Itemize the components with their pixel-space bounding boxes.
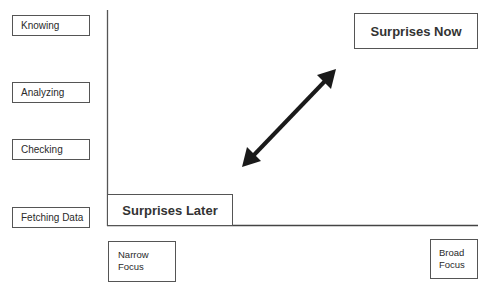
surprises-later-box: Surprises Later (107, 194, 233, 226)
broad-focus-box: Broad Focus (430, 239, 478, 279)
broad-focus-line1: Broad (439, 247, 477, 259)
narrow-focus-line2: Focus (118, 261, 175, 273)
narrow-focus-box: Narrow Focus (108, 241, 176, 282)
level-analyzing: Analyzing (12, 82, 90, 103)
level-checking: Checking (12, 139, 90, 160)
surprises-now-box: Surprises Now (354, 13, 478, 49)
level-fetching-data: Fetching Data (12, 207, 90, 228)
narrow-focus-line1: Narrow (118, 249, 175, 261)
double-arrow-icon (242, 69, 336, 167)
level-knowing: Knowing (12, 15, 90, 36)
broad-focus-line2: Focus (439, 259, 477, 271)
